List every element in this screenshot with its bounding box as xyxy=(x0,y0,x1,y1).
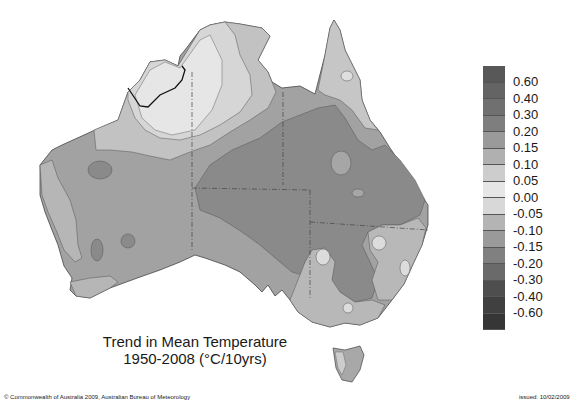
qld-small-spot xyxy=(352,189,364,197)
legend-label: 0.05 xyxy=(513,173,543,190)
sa-spot xyxy=(316,249,330,265)
legend-swatch xyxy=(483,215,505,232)
wa-warm-spot-3 xyxy=(121,234,135,248)
map-title-line1: Trend in Mean Temperature xyxy=(90,333,300,351)
legend-label: -0.60 xyxy=(513,305,543,322)
issued-date: issued: 10/02/2009 xyxy=(519,394,570,400)
legend-swatch xyxy=(483,182,505,199)
legend-swatch xyxy=(483,281,505,298)
legend-label: -0.30 xyxy=(513,272,543,289)
legend-swatch xyxy=(483,248,505,265)
legend-swatch xyxy=(483,297,505,314)
legend-label: -0.40 xyxy=(513,289,543,306)
vic-spot xyxy=(343,303,353,313)
copyright-text: © Commonwealth of Australia 2009, Austra… xyxy=(4,394,190,400)
legend-labels: 0.600.400.300.200.150.100.050.00-0.05-0.… xyxy=(513,74,543,322)
legend-swatch xyxy=(483,165,505,182)
wa-warm-spot-2 xyxy=(91,239,103,261)
map-title-line2: 1950-2008 (°C/10yrs) xyxy=(90,350,300,368)
wa-warm-spot-1 xyxy=(88,161,112,179)
cape-york-spot xyxy=(341,71,353,81)
legend-label: -0.15 xyxy=(513,239,543,256)
legend-label: 0.30 xyxy=(513,107,543,124)
legend-label: 0.15 xyxy=(513,140,543,157)
legend-label: -0.05 xyxy=(513,206,543,223)
legend-label: -0.10 xyxy=(513,223,543,240)
legend-swatch xyxy=(483,83,505,100)
legend-label: 0.20 xyxy=(513,124,543,141)
legend-swatch xyxy=(483,66,505,83)
legend-swatch xyxy=(483,116,505,133)
legend-swatch xyxy=(483,264,505,281)
legend-swatch xyxy=(483,198,505,215)
qld-light-spot xyxy=(331,151,351,175)
nsw-spot-2 xyxy=(400,260,410,276)
legend-swatch xyxy=(483,99,505,116)
legend-label: 0.40 xyxy=(513,91,543,108)
legend-label: -0.20 xyxy=(513,256,543,273)
legend-label: 0.10 xyxy=(513,157,543,174)
legend-label: 0.00 xyxy=(513,190,543,207)
legend-colorbar xyxy=(483,66,505,330)
legend-swatch xyxy=(483,314,505,331)
legend-label: 0.60 xyxy=(513,74,543,91)
nsw-light-zone xyxy=(368,218,426,300)
legend-swatch xyxy=(483,231,505,248)
legend-swatch xyxy=(483,149,505,166)
legend-swatch xyxy=(483,132,505,149)
nsw-spot-1 xyxy=(372,236,386,250)
